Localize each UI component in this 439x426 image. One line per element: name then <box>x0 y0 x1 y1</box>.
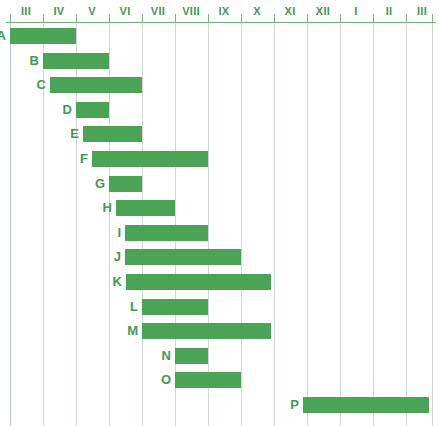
chart-bars: ABCDEFGHIJKLMNOP <box>0 0 439 426</box>
bar-row[interactable]: E <box>0 124 439 144</box>
bar-category-label: L <box>130 299 142 315</box>
bar-category-label: N <box>162 348 175 364</box>
bar-category-label: G <box>95 176 109 192</box>
bar-segment[interactable] <box>303 397 429 413</box>
bar-row[interactable]: C <box>0 75 439 95</box>
bar-category-label: M <box>127 323 142 339</box>
bar-category-label: C <box>37 77 50 93</box>
bar-segment[interactable] <box>76 102 109 118</box>
bar-segment[interactable] <box>126 274 271 290</box>
bar-category-label: I <box>117 225 125 241</box>
bar-category-label: J <box>114 249 125 265</box>
bar-row[interactable]: L <box>0 297 439 317</box>
bar-row[interactable]: I <box>0 223 439 243</box>
bar-row[interactable]: N <box>0 346 439 366</box>
bar-row[interactable]: H <box>0 198 439 218</box>
bar-category-label: D <box>63 102 76 118</box>
bar-segment[interactable] <box>116 200 175 216</box>
bar-row[interactable]: M <box>0 321 439 341</box>
bar-category-label: E <box>70 126 83 142</box>
bar-segment[interactable] <box>142 299 208 315</box>
bar-row[interactable]: A <box>0 26 439 46</box>
bar-category-label: P <box>290 397 303 413</box>
bar-row[interactable]: F <box>0 149 439 169</box>
bar-row[interactable]: P <box>0 395 439 415</box>
bar-segment[interactable] <box>175 348 208 364</box>
bar-category-label: K <box>113 274 126 290</box>
bar-segment[interactable] <box>125 225 208 241</box>
bar-row[interactable]: B <box>0 51 439 71</box>
bar-segment[interactable] <box>83 126 142 142</box>
bar-segment[interactable] <box>125 249 241 265</box>
bar-row[interactable]: O <box>0 370 439 390</box>
bar-segment[interactable] <box>175 372 241 388</box>
bar-category-label: O <box>161 372 175 388</box>
gantt-chart: IIIIVVVIVIIVIIIIXXXIXIIIIIIII ABCDEFGHIJ… <box>0 0 439 426</box>
bar-segment[interactable] <box>109 176 142 192</box>
bar-segment[interactable] <box>43 53 109 69</box>
bar-segment[interactable] <box>10 28 76 44</box>
bar-segment[interactable] <box>142 323 271 339</box>
bar-segment[interactable] <box>50 77 142 93</box>
bar-segment[interactable] <box>92 151 208 167</box>
bar-row[interactable]: G <box>0 174 439 194</box>
bar-category-label: H <box>103 200 116 216</box>
bar-category-label: B <box>30 53 43 69</box>
bar-row[interactable]: K <box>0 272 439 292</box>
bar-category-label: F <box>80 151 92 167</box>
bar-row[interactable]: J <box>0 247 439 267</box>
bar-row[interactable]: D <box>0 100 439 120</box>
bar-category-label: A <box>0 28 10 44</box>
